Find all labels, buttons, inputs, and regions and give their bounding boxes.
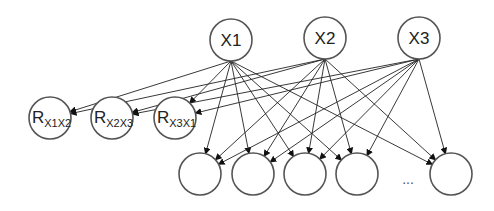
node-circle bbox=[284, 153, 326, 195]
input-node-x1: X1 bbox=[210, 19, 252, 61]
relation-node-x1x2: RX1X2 bbox=[29, 97, 71, 139]
edge-arrow bbox=[320, 59, 419, 159]
edge-arrow bbox=[309, 59, 325, 153]
node-label: X1 bbox=[221, 31, 242, 50]
input-node-x2: X2 bbox=[304, 17, 346, 59]
network-diagram: X1X2X3RX1X2RX2X3RX3X1... bbox=[0, 0, 494, 211]
relation-node-x2x3: RX2X3 bbox=[91, 97, 133, 139]
output-node-on bbox=[430, 153, 472, 195]
node-circle bbox=[336, 153, 378, 195]
output-node-o4 bbox=[336, 153, 378, 195]
ellipsis: ... bbox=[402, 171, 414, 187]
edge-arrow bbox=[367, 59, 419, 156]
edge-arrow bbox=[325, 59, 435, 160]
output-node-o3 bbox=[284, 153, 326, 195]
edge-arrow bbox=[206, 61, 231, 154]
node-label: X3 bbox=[409, 29, 430, 48]
edge-arrow bbox=[219, 59, 419, 164]
edge-arrow bbox=[419, 59, 445, 154]
node-circle bbox=[430, 153, 472, 195]
node-label: X2 bbox=[315, 29, 336, 48]
output-node-o1 bbox=[179, 153, 221, 195]
relation-node-x3x1: RX3X1 bbox=[154, 97, 196, 139]
input-node-x3: X3 bbox=[398, 17, 440, 59]
node-circle bbox=[179, 153, 221, 195]
edge-arrow bbox=[70, 61, 231, 112]
node-circle bbox=[232, 153, 274, 195]
nodes: X1X2X3RX1X2RX2X3RX3X1... bbox=[29, 17, 472, 195]
output-node-o2 bbox=[232, 153, 274, 195]
